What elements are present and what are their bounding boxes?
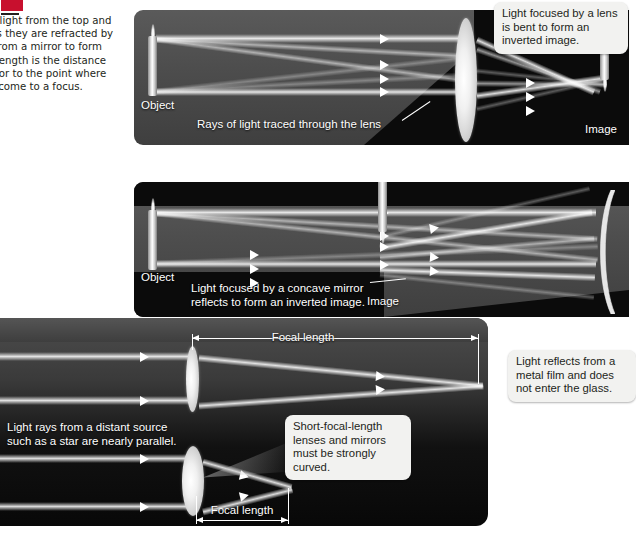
short-focal-length-callout: Short-focal-length lenses and mirrors mu… <box>285 415 411 480</box>
ray-incoming <box>156 34 466 43</box>
caption-line: mirror to the point where <box>0 67 138 80</box>
lens-callout-text: Light focused by a lens is bent to form … <box>502 7 618 46</box>
concave-mirror-shape <box>589 190 615 314</box>
figure-letter-badge <box>1 0 23 11</box>
concave-mirror <box>589 190 615 314</box>
parallel-ray <box>0 352 194 361</box>
candle-body <box>148 36 157 96</box>
dimension-tick-right <box>288 488 289 524</box>
focal-length-panel: Focal length Light rays from a distant s… <box>0 318 488 526</box>
object-label: Object <box>141 270 174 284</box>
mirror-caption-line2: reflects to form an inverted image. <box>191 295 365 309</box>
parallel-ray <box>0 502 194 511</box>
image-label: Image <box>585 122 617 136</box>
converging-ray <box>199 382 484 410</box>
ray-reflected <box>380 235 595 261</box>
candle-body <box>148 210 157 270</box>
ray-incoming <box>156 210 598 242</box>
ray-reflected <box>380 266 595 281</box>
ray-incoming <box>156 88 466 96</box>
ray-arrowhead <box>140 454 149 464</box>
ray-arrowhead <box>526 78 535 88</box>
ray-incoming <box>156 72 471 95</box>
ray-arrowhead <box>526 92 535 102</box>
caption-line: ght come to a focus. <box>0 80 138 93</box>
ray-incoming <box>156 36 472 85</box>
ray-reflected <box>380 272 594 300</box>
short-focal-length-callout-text: Short-focal-length lenses and mirrors mu… <box>293 420 386 473</box>
ray-arrowhead <box>250 264 259 274</box>
dimension-arrow-right <box>471 335 478 341</box>
ray-arrowhead <box>380 34 389 44</box>
parallel-rays-caption-line1: Light rays from a distant source <box>7 420 167 434</box>
ray-incoming <box>156 210 598 263</box>
lens-callout: Light focused by a lens is bent to form … <box>494 2 628 54</box>
dimension-arrow-left <box>196 517 203 523</box>
ray-arrowhead <box>239 470 250 482</box>
converging-lens <box>455 18 477 142</box>
ray-arrowhead <box>429 223 440 234</box>
caption-line: s of light from the top and <box>0 14 138 27</box>
object-label: Object <box>141 98 174 112</box>
ray-arrowhead <box>380 242 389 252</box>
ray-arrowhead <box>239 490 250 502</box>
focal-length-dimension-line <box>192 338 478 339</box>
caption-line: cal length is the distance <box>0 54 138 67</box>
focal-length-dimension-line-short <box>196 520 288 521</box>
ray-incoming <box>156 36 471 60</box>
ray-arrowhead <box>430 252 440 263</box>
ray-incoming <box>156 54 473 95</box>
ray-arrowhead <box>140 502 149 512</box>
ray-arrowhead <box>250 250 259 260</box>
ray-arrowhead <box>140 396 149 406</box>
mirror-caption-line1: Light focused by a concave mirror <box>191 281 364 295</box>
metal-film-callout-text: Light reflects from a metal film and doe… <box>516 355 615 394</box>
ray-incoming <box>156 260 596 268</box>
parallel-ray <box>0 454 194 463</box>
caption-line: le as they are refracted by <box>0 27 138 40</box>
focal-length-label-long: Focal length <box>272 331 335 343</box>
dimension-arrow-right <box>281 517 288 523</box>
ray-arrowhead <box>380 60 389 70</box>
dimension-tick-right <box>478 334 479 384</box>
ray-arrowhead <box>380 87 389 97</box>
ray-arrowhead <box>430 266 440 277</box>
ray-arrowhead <box>140 352 149 362</box>
ray-incoming <box>156 208 596 217</box>
thin-lens <box>186 346 199 412</box>
candle-body <box>378 182 387 232</box>
ray-reflected <box>379 209 592 252</box>
ray-arrowhead <box>376 384 386 395</box>
ray-arrowhead <box>526 106 535 116</box>
ray-trace-label: Rays of light traced through the lens <box>197 117 381 131</box>
caption-line: ed from a mirror to form <box>0 40 138 53</box>
mirror-diagram-panel: Object Image Light focused by a concave … <box>134 182 629 317</box>
dimension-arrow-left <box>192 335 199 341</box>
focal-length-label-short: Focal length <box>211 504 274 516</box>
parallel-ray <box>0 396 194 405</box>
ray-arrowhead <box>376 371 386 382</box>
thick-lens <box>182 446 204 516</box>
image-label: Image <box>367 294 399 308</box>
ray-arrowhead <box>380 74 389 84</box>
metal-film-callout: Light reflects from a metal film and doe… <box>508 350 636 402</box>
parallel-rays-caption-line2: such as a star are nearly parallel. <box>7 434 176 448</box>
ray-incoming <box>156 243 598 267</box>
ray-arrowhead <box>380 260 389 270</box>
converging-ray <box>199 354 483 390</box>
figure-caption: s of light from the top and le as they a… <box>0 14 138 93</box>
